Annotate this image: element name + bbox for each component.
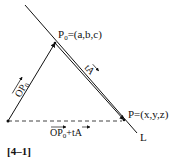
- svg-text:OP0+tA: OP0+tA: [50, 127, 83, 140]
- vector-ta: [55, 43, 124, 120]
- vector-op0: [8, 43, 55, 121]
- p-label: P=(x,y,z): [128, 108, 169, 121]
- p0-point: [54, 42, 57, 45]
- svg-text:tA: tA: [83, 62, 98, 77]
- svg-text:OP0: OP0: [12, 79, 32, 100]
- origin-point: [7, 120, 10, 123]
- vector-line-diagram: P0=(a,b,c) P=(x,y,z) L OP0 tA OP0+tA [4–…: [0, 0, 185, 167]
- line-L-label: L: [140, 131, 147, 143]
- figure-number: [4–1]: [7, 145, 31, 157]
- p0-label: P0=(a,b,c): [58, 28, 102, 42]
- line-L: [25, 5, 137, 133]
- op0-label: OP0: [12, 77, 33, 100]
- p-point: [123, 119, 126, 122]
- sum-label: OP0+tA: [50, 127, 90, 140]
